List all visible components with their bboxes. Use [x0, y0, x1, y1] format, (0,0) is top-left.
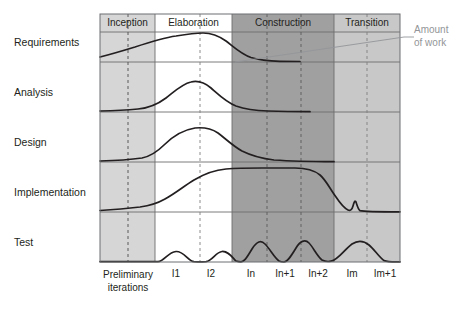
amount-of-work-line1: Amount — [414, 24, 448, 37]
discipline-label-requirements: Requirements — [14, 36, 79, 48]
phase-background-elaboration — [155, 14, 232, 262]
rup-lifecycle-figure: Requirements Analysis Design Implementat… — [0, 0, 462, 309]
amount-of-work-line2: of work — [414, 37, 448, 50]
phase-label-transition: Transition — [334, 17, 400, 28]
phase-label-elaboration: Elaboration — [155, 17, 232, 28]
discipline-label-analysis: Analysis — [14, 86, 53, 98]
iteration-label-i2: I2 — [191, 268, 231, 280]
phase-label-construction: Construction — [232, 17, 334, 28]
phase-background-construction — [232, 14, 334, 262]
iteration-label-i1: I1 — [156, 268, 196, 280]
iteration-label-preliminary-line2: iterations — [88, 281, 168, 294]
phase-background-inception — [100, 14, 155, 262]
phase-label-inception: Inception — [100, 17, 155, 28]
discipline-label-implementation: Implementation — [14, 186, 86, 198]
iteration-label-im-plus-1: Im+1 — [365, 268, 405, 280]
discipline-label-test: Test — [14, 236, 33, 248]
phase-backgrounds — [100, 14, 400, 262]
amount-of-work-annotation: Amount of work — [414, 24, 448, 49]
discipline-label-design: Design — [14, 136, 47, 148]
